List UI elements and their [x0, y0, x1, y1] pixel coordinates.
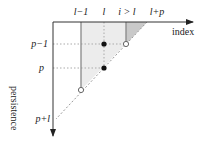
point-open-l-minus-1-p-plus-l: [78, 87, 83, 92]
left-label-p-plus-l: p+l: [34, 113, 50, 124]
left-label-p: p: [38, 62, 44, 73]
point-open-i-p-minus-1: [123, 41, 128, 46]
left-label-p-minus-1: p−1: [30, 38, 48, 49]
y-axis-label: persistence: [9, 86, 20, 131]
top-label-i-gt-l: i > l: [118, 6, 136, 17]
point-filled-l-p-minus-1: [101, 41, 106, 46]
top-label-l: l: [103, 6, 106, 17]
point-filled-l-p: [101, 65, 106, 70]
persistence-diagram: l−1 l i > l l+p index p−1 p p+l persiste…: [0, 0, 204, 145]
x-axis-label: index: [172, 26, 194, 37]
top-label-l-minus-1: l−1: [74, 6, 89, 17]
top-label-l-plus-p: l+p: [150, 6, 165, 17]
